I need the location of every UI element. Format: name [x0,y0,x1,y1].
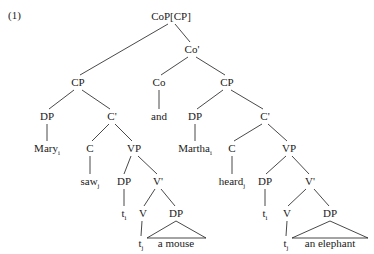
terminal-heard-text: heard [219,175,243,187]
trace-subject-left-index: i [125,214,127,222]
node-cp-left: CP [71,77,84,88]
trace-verb-right-index: j [287,244,289,252]
node-dp-object-left: DP [169,208,183,219]
trace-subject-left: ti [121,208,126,219]
trace-verb-right: tj [283,238,288,249]
node-c-right: C [228,143,235,154]
terminal-and: and [151,111,167,122]
node-vp-left: VP [127,143,141,154]
terminal-martha-index: i [210,149,212,157]
tree-branches [0,0,374,254]
node-dp-left-subject: DP [40,111,54,122]
node-vp-right: VP [282,143,296,154]
figure-container: (1) [0,0,374,254]
terminal-heard-index: j [243,182,245,190]
node-cp-right: CP [220,77,233,88]
trace-verb-left-index: j [142,244,144,252]
node-co-bar: Co' [185,44,200,55]
node-c-bar-left: C' [107,111,116,122]
node-co-head: Co [153,77,166,88]
node-v-bar-left: V' [153,176,163,187]
terminal-heard: heardj [219,176,245,187]
terminal-mary-index: i [58,149,60,157]
node-v-bar-right: V' [305,176,315,187]
terminal-martha-text: Martha [178,142,210,154]
terminal-saw: sawj [80,176,99,187]
terminal-mary-text: Mary [34,142,58,154]
node-v-right: V [283,208,291,219]
node-dp-object-right: DP [323,208,337,219]
terminal-a-mouse: a mouse [158,238,194,249]
node-dp-left-trace: DP [117,176,131,187]
trace-subject-right-index: i [266,214,268,222]
terminal-an-elephant: an elephant [305,238,355,249]
trace-subject-right: ti [262,208,267,219]
node-c-left: C [86,143,93,154]
trace-verb-left: tj [138,238,143,249]
node-cop: CoP[CP] [151,11,191,22]
node-c-bar-right: C' [260,111,269,122]
terminal-saw-index: j [98,182,100,190]
node-v-left: V [139,208,147,219]
terminal-martha: Marthai [178,143,212,154]
node-dp-right-subject: DP [188,111,202,122]
terminal-saw-text: saw [80,175,97,187]
terminal-mary: Maryi [34,143,60,154]
node-dp-right-trace: DP [258,176,272,187]
